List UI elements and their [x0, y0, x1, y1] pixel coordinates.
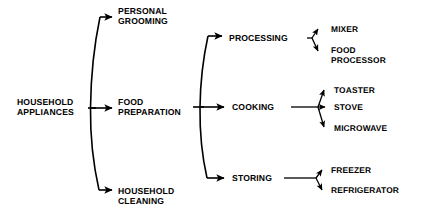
node-food-preparation-line1: FOOD — [118, 97, 143, 107]
node-household-cleaning: HOUSEHOLDCLEANING — [118, 186, 174, 206]
node-toaster-label: TOASTER — [334, 85, 375, 95]
storing-fork-down — [316, 178, 322, 190]
node-mixer-label: MIXER — [331, 24, 358, 34]
node-stove: STOVE — [334, 102, 363, 112]
node-refrigerator: REFRIGERATOR — [331, 185, 399, 195]
node-food-processor-line1: FOOD — [331, 45, 356, 55]
node-stove-label: STOVE — [334, 102, 363, 112]
node-food-preparation: FOODPREPARATION — [118, 97, 181, 117]
storing-fork-up — [316, 170, 322, 178]
node-household-cleaning-line2: CLEANING — [118, 196, 164, 206]
node-microwave: MICROWAVE — [334, 123, 387, 133]
node-freezer: FREEZER — [331, 165, 371, 175]
node-food-processor: FOODPROCESSOR — [331, 45, 386, 65]
node-household-appliances-line2: APPLIANCES — [17, 107, 74, 117]
node-storing-label: STORING — [232, 173, 272, 183]
node-mixer: MIXER — [331, 24, 358, 34]
node-processing-label: PROCESSING — [229, 33, 288, 43]
appliance-taxonomy-diagram: HOUSEHOLDAPPLIANCES PERSONALGROOMING FOO… — [0, 0, 427, 224]
node-household-cleaning-line1: HOUSEHOLD — [118, 186, 174, 196]
processing-fork-down — [312, 38, 318, 51]
cooking-fork-down — [318, 107, 324, 127]
root-trunk-spine — [90, 17, 100, 190]
node-storing: STORING — [232, 173, 272, 183]
node-freezer-label: FREEZER — [331, 165, 371, 175]
node-toaster: TOASTER — [334, 85, 375, 95]
node-food-preparation-line2: PREPARATION — [118, 107, 181, 117]
cooking-fork-up — [318, 90, 324, 107]
node-household-appliances: HOUSEHOLDAPPLIANCES — [17, 97, 74, 117]
node-processing: PROCESSING — [229, 33, 288, 43]
node-personal-grooming-line2: GROOMING — [118, 16, 168, 26]
node-food-processor-line2: PROCESSOR — [331, 55, 386, 65]
node-microwave-label: MICROWAVE — [334, 123, 387, 133]
node-cooking-label: COOKING — [232, 102, 274, 112]
node-refrigerator-label: REFRIGERATOR — [331, 185, 399, 195]
processing-fork-up — [312, 29, 318, 38]
node-personal-grooming-line1: PERSONAL — [118, 6, 167, 16]
node-cooking: COOKING — [232, 102, 274, 112]
node-household-appliances-line1: HOUSEHOLD — [17, 97, 73, 107]
node-personal-grooming: PERSONALGROOMING — [118, 6, 168, 26]
